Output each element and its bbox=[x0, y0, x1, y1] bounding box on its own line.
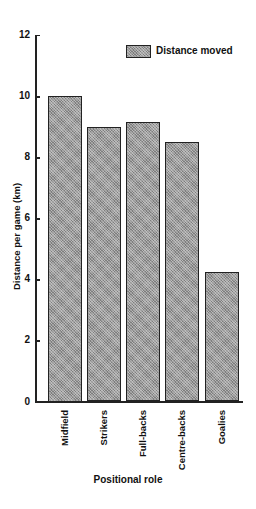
y-tick-label: 0 bbox=[10, 396, 30, 407]
category-label: Centre-backs bbox=[176, 410, 187, 470]
y-tick bbox=[35, 402, 40, 404]
y-tick bbox=[35, 218, 40, 220]
y-tick-label: 2 bbox=[10, 334, 30, 345]
chart: 024681012 MidfieldStrikersFull-backsCent… bbox=[0, 0, 256, 509]
legend-label: Distance moved bbox=[156, 45, 233, 56]
y-tick bbox=[35, 279, 40, 281]
bar-full-backs bbox=[126, 122, 160, 402]
bar-goalies bbox=[205, 272, 239, 402]
y-axis-label: Distance per game (km) bbox=[11, 183, 22, 290]
y-tick bbox=[35, 35, 40, 37]
category-label: Midfield bbox=[59, 410, 70, 446]
y-tick-label: 8 bbox=[10, 151, 30, 162]
bar-strikers bbox=[87, 127, 121, 402]
bar-midfield bbox=[48, 96, 82, 402]
y-tick bbox=[35, 340, 40, 342]
category-label: Goalies bbox=[216, 410, 227, 444]
y-tick-label: 10 bbox=[10, 90, 30, 101]
bar-centre-backs bbox=[165, 142, 199, 402]
y-tick bbox=[35, 157, 40, 159]
y-tick bbox=[35, 96, 40, 98]
y-tick-label: 12 bbox=[10, 29, 30, 40]
x-axis-label: Positional role bbox=[0, 474, 256, 485]
category-label: Strikers bbox=[98, 410, 109, 445]
legend-swatch bbox=[126, 45, 151, 58]
category-label: Full-backs bbox=[137, 410, 148, 457]
